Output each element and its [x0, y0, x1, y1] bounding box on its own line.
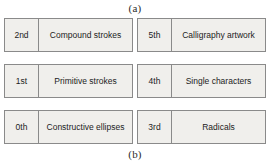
level-index: 2nd [5, 19, 39, 51]
figure-caption-a: (a) [0, 2, 270, 14]
level-index: 3rd [138, 111, 172, 143]
level-box: 1st Primitive strokes [4, 64, 133, 98]
level-label: Radicals [172, 111, 265, 143]
level-box: 5th Calligraphy artwork [137, 18, 266, 52]
left-hierarchy-column: 2nd Compound strokes 1st Primitive strok… [4, 18, 133, 144]
right-hierarchy-column: 5th Calligraphy artwork 4th Single chara… [137, 18, 266, 144]
level-box: 0th Constructive ellipses [4, 110, 133, 144]
level-box: 3rd Radicals [137, 110, 266, 144]
level-label: Calligraphy artwork [172, 19, 265, 51]
figure-caption-b: (b) [0, 148, 270, 160]
hierarchy-columns: 2nd Compound strokes 1st Primitive strok… [4, 18, 266, 144]
level-label: Compound strokes [39, 19, 132, 51]
level-index: 1st [5, 65, 39, 97]
level-label: Primitive strokes [39, 65, 132, 97]
level-index: 4th [138, 65, 172, 97]
level-box: 4th Single characters [137, 64, 266, 98]
level-box: 2nd Compound strokes [4, 18, 133, 52]
level-index: 5th [138, 19, 172, 51]
level-label: Constructive ellipses [39, 111, 132, 143]
level-index: 0th [5, 111, 39, 143]
hierarchy-figure: (a) 2nd Compound strokes 1st Primitive s… [0, 0, 270, 166]
level-label: Single characters [172, 65, 265, 97]
